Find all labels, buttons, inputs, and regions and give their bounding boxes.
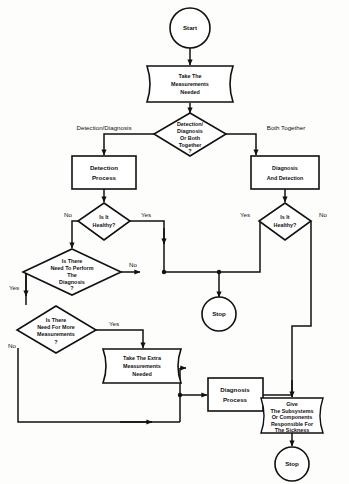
- diagnosis-process-line-2: Process: [223, 396, 248, 403]
- node-diagnosis-process[interactable]: Diagnosis Process: [208, 378, 263, 411]
- stop-middle-label: Stop: [212, 310, 226, 317]
- node-stop-bottom[interactable]: Stop: [275, 447, 309, 481]
- need-diag-line-2: Need To Perform: [50, 265, 93, 271]
- flowchart-svg: Start Take The Measurements Needed Detec…: [0, 0, 349, 484]
- label-healthy-left-yes: Yes: [141, 211, 151, 218]
- node-start-label: Start: [183, 24, 197, 31]
- flowchart-canvas: Start Take The Measurements Needed Detec…: [0, 0, 349, 484]
- edge-both-together-branch: [225, 134, 256, 155]
- healthy-left-line-1: Is It: [99, 214, 108, 220]
- edge-need-more-yes: [95, 330, 143, 348]
- node-stop-middle[interactable]: Stop: [202, 297, 236, 331]
- label-need-more-yes: Yes: [109, 320, 119, 327]
- edge-healthy-right-no: [292, 221, 311, 397]
- need-more-line-2: Need For More: [37, 324, 75, 330]
- decision-line-5: ?: [188, 148, 191, 154]
- need-diag-line-5: ?: [70, 285, 73, 291]
- connectors: [18, 48, 311, 446]
- node-is-it-healthy-left[interactable]: Is It Healthy?: [78, 203, 130, 240]
- node-take-measurements-line-2: Measurements: [171, 81, 209, 87]
- edge-detection-diagnosis-branch: [104, 134, 155, 155]
- need-more-line-1: Is There: [46, 317, 67, 323]
- node-detection-process[interactable]: Detection Process: [72, 156, 136, 189]
- extra-meas-line-3: Needed: [132, 371, 151, 377]
- edge-healthy-left-no: [72, 221, 79, 248]
- label-both-together-branch: Both Together: [267, 124, 305, 131]
- extra-meas-line-1: Take The Extra: [123, 355, 162, 361]
- node-is-it-healthy-right[interactable]: Is It Healthy?: [259, 203, 311, 240]
- node-diagnosis-detection-line-2: And Detection: [267, 175, 304, 181]
- edge-healthy-right-yes: [164, 221, 260, 272]
- label-detection-diagnosis-branch: Detection/Diagnosis: [76, 124, 131, 131]
- give-sub-line-5: The Sickness: [275, 427, 309, 433]
- node-need-to-perform-diagnosis[interactable]: Is There Need To Perform The Diagnosis ?: [23, 249, 121, 295]
- stop-bottom-label: Stop: [285, 460, 299, 467]
- label-healthy-right-no: No: [319, 211, 327, 218]
- give-sub-line-2: The Subsystems: [271, 408, 314, 414]
- decision-line-1: Detection/: [177, 121, 204, 127]
- give-sub-line-3: Or Components: [272, 414, 313, 420]
- node-diagnosis-and-detection[interactable]: Diagnosis And Detection: [251, 156, 319, 189]
- healthy-right-line-2: Healthy?: [274, 222, 297, 228]
- decision-line-2: Diagnosis: [177, 128, 203, 134]
- healthy-right-line-1: Is It: [280, 214, 289, 220]
- extra-meas-line-2: Measurements: [123, 363, 161, 369]
- node-give-subsystems[interactable]: Give The Subsystems Or Components Respon…: [261, 398, 323, 433]
- node-diagnosis-detection-line-1: Diagnosis: [272, 165, 298, 171]
- junction-dot-yes-merge: [162, 270, 166, 274]
- label-need-diagnosis-no: No: [129, 261, 137, 268]
- label-need-diagnosis-yes: Yes: [9, 284, 19, 291]
- node-take-measurements-line-3: Needed: [180, 89, 199, 95]
- give-sub-line-1: Give: [286, 401, 298, 407]
- node-detection-process-line-2: Process: [92, 174, 117, 181]
- node-take-measurements[interactable]: Take The Measurements Needed: [147, 66, 233, 102]
- need-diag-line-1: Is There: [62, 258, 83, 264]
- decision-line-3: Or Both: [180, 135, 200, 141]
- need-diag-line-3: The: [67, 272, 77, 278]
- node-detection-process-line-1: Detection: [90, 164, 118, 171]
- node-detection-diagnosis-decision[interactable]: Detection/ Diagnosis Or Both Together ?: [154, 113, 226, 156]
- diagnosis-process-line-1: Diagnosis: [220, 386, 250, 393]
- node-start[interactable]: Start: [170, 8, 210, 48]
- junction-dot-merge: [217, 270, 221, 274]
- node-take-extra-measurements[interactable]: Take The Extra Measurements Needed: [103, 349, 181, 383]
- healthy-left-line-2: Healthy?: [93, 222, 116, 228]
- need-more-line-3: Measurements: [37, 331, 75, 337]
- label-healthy-left-no: No: [64, 211, 72, 218]
- label-need-more-no: No: [8, 342, 16, 349]
- node-take-measurements-line-1: Take The: [179, 73, 202, 79]
- node-need-for-more-measurements[interactable]: Is There Need For More Measurements ?: [17, 306, 96, 353]
- need-more-line-4: ?: [54, 339, 57, 345]
- label-healthy-right-yes: Yes: [240, 211, 250, 218]
- give-sub-line-4: Responsible For: [271, 421, 314, 427]
